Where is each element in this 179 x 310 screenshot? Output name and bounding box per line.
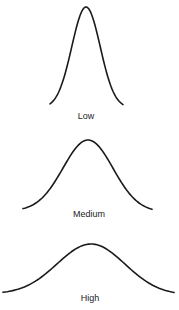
low-variance-curve [50,7,123,105]
medium-label: Medium [59,209,119,219]
curves-canvas [0,0,179,310]
bell-curve-diagram: Low Medium High [0,0,179,310]
low-label: Low [56,111,116,121]
high-label: High [60,293,120,303]
medium-variance-curve [23,140,152,209]
high-variance-curve [3,244,174,292]
